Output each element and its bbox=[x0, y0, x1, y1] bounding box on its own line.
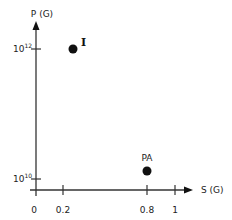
data-point-i bbox=[69, 45, 78, 54]
y-axis-label: P (G) bbox=[31, 9, 53, 19]
y-tick-label-1e10: 1010 bbox=[13, 172, 32, 184]
x-tick-label-0-8: 0.8 bbox=[140, 205, 155, 215]
x-tick-label-0-2: 0.2 bbox=[56, 205, 70, 215]
data-point-pa bbox=[143, 167, 152, 176]
x-tick-label-0: 0 bbox=[31, 205, 37, 215]
y-tick-label-1e12: 1012 bbox=[13, 42, 32, 54]
data-point-label-i: I bbox=[81, 36, 86, 49]
data-point-label-pa: PA bbox=[141, 153, 153, 163]
y-axis-arrow-icon bbox=[33, 21, 40, 30]
x-axis-arrow-icon bbox=[184, 187, 193, 194]
x-axis-label: S (G) bbox=[201, 185, 224, 195]
x-tick-label-1: 1 bbox=[172, 205, 178, 215]
scatter-chart: P (G) S (G) 1012 1010 0 0.2 0.8 1 I PA bbox=[0, 0, 232, 220]
